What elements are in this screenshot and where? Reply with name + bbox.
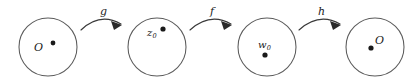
domain-label-2-subscript: 0 <box>152 32 156 40</box>
domain-circle-2 <box>128 18 186 76</box>
domain-circle-1 <box>19 18 77 76</box>
map-label-h: h <box>318 6 325 17</box>
domain-label-3-subscript: 0 <box>267 44 271 52</box>
base-point-2 <box>160 26 165 31</box>
domain-label-4: O <box>375 35 384 46</box>
domain-label-4-text: O <box>375 34 384 47</box>
base-point-4 <box>368 45 373 50</box>
domain-label-1-text: O <box>34 41 43 54</box>
mapping-diagram: O z0 w0 O g f h <box>0 0 416 82</box>
map-label-g: g <box>100 6 107 17</box>
domain-label-1: O <box>34 42 43 53</box>
map-label-f: f <box>210 6 214 17</box>
diagram-canvas <box>0 0 416 82</box>
base-point-3 <box>262 52 267 57</box>
domain-label-2: z0 <box>147 28 157 40</box>
domain-label-3: w0 <box>258 40 271 52</box>
domain-circle-4 <box>346 18 404 76</box>
domain-label-3-text: w <box>258 39 267 50</box>
base-point-1 <box>51 41 56 46</box>
